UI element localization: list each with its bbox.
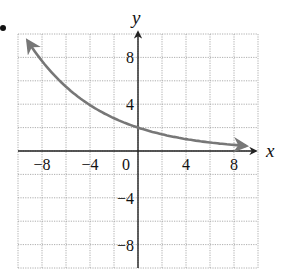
x-tick-label: −4 bbox=[81, 156, 98, 173]
x-axis-label: x bbox=[265, 140, 275, 161]
y-tick-label: 8 bbox=[126, 49, 134, 66]
x-tick-label: −8 bbox=[33, 156, 50, 173]
y-tick-label: −8 bbox=[117, 237, 134, 254]
x-tick-label: 0 bbox=[122, 156, 130, 173]
y-tick-label: −4 bbox=[117, 190, 134, 207]
x-tick-label: 8 bbox=[230, 156, 238, 173]
y-tick-label: 4 bbox=[126, 96, 134, 113]
x-tick-label: 4 bbox=[182, 156, 190, 173]
exponential-curve bbox=[28, 41, 246, 146]
exponential-graph: xy−8−404884−4−8 bbox=[0, 0, 281, 279]
y-axis-label: y bbox=[130, 7, 141, 28]
